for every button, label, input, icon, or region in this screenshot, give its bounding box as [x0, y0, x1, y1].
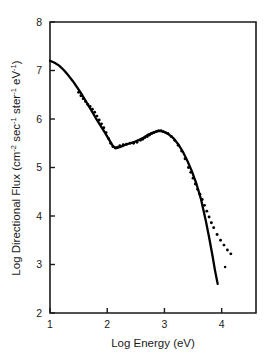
- x-tick-label-2: 2: [104, 318, 110, 330]
- y-axis-title-mid1: sec: [10, 124, 22, 145]
- y-tick-label-3: 3: [36, 258, 42, 270]
- data-point: [173, 139, 176, 142]
- x-tick-label-3: 3: [162, 318, 168, 330]
- y-axis-title-mid3: eV: [10, 71, 22, 89]
- data-point: [100, 122, 103, 125]
- series-2: [224, 266, 227, 269]
- data-point: [229, 252, 232, 255]
- data-point: [82, 97, 85, 100]
- data-point: [132, 142, 135, 145]
- y-axis-title-sup4: -1: [9, 64, 18, 71]
- data-point: [170, 135, 173, 138]
- data-point: [93, 111, 96, 114]
- data-point: [141, 138, 144, 141]
- data-point: [77, 91, 80, 94]
- y-tick-label-4: 4: [36, 210, 42, 222]
- y-axis-title-sup2: -1: [9, 117, 18, 124]
- data-point: [84, 100, 87, 103]
- data-point: [122, 143, 125, 146]
- data-point: [79, 94, 82, 97]
- y-tick-label-5: 5: [36, 161, 42, 173]
- data-point: [166, 132, 169, 135]
- data-point: [118, 144, 121, 147]
- data-point: [98, 119, 101, 122]
- data-point: [219, 239, 222, 242]
- data-point: [201, 198, 204, 201]
- y-tick-label-2: 2: [36, 307, 42, 319]
- y-axis-title-tail: ): [10, 60, 22, 64]
- data-point: [107, 137, 110, 140]
- data-point: [125, 143, 128, 146]
- data-point: [189, 171, 192, 174]
- data-point: [91, 108, 94, 111]
- data-point: [212, 226, 215, 229]
- data-point: [205, 210, 208, 213]
- data-point: [109, 142, 112, 145]
- data-point: [208, 216, 211, 219]
- data-point: [196, 188, 199, 191]
- data-point: [129, 142, 132, 145]
- y-tick-label-8: 8: [36, 16, 42, 28]
- x-tick-label-4: 4: [219, 318, 225, 330]
- data-point: [224, 266, 227, 269]
- x-tick-label-1: 1: [47, 318, 53, 330]
- y-axis-title-sup1: -2: [9, 145, 18, 152]
- y-tick-label-6: 6: [36, 113, 42, 125]
- data-point: [203, 204, 206, 207]
- data-point: [194, 183, 197, 186]
- data-point: [86, 103, 89, 106]
- chart-canvas: 1234 2345678 Log Energy (eV) Log Directi…: [0, 0, 270, 363]
- data-point: [223, 244, 226, 247]
- x-axis-title: Log Energy (eV): [111, 337, 195, 349]
- data-point: [184, 157, 187, 160]
- data-point: [105, 131, 108, 134]
- figure-container: 1234 2345678 Log Energy (eV) Log Directi…: [0, 0, 270, 363]
- data-point: [192, 177, 195, 180]
- data-point: [95, 115, 98, 118]
- data-point: [216, 233, 219, 236]
- y-axis-title-main: Log Directional Flux (cm: [10, 152, 22, 276]
- data-point: [102, 126, 105, 129]
- data-point: [136, 141, 139, 144]
- data-point: [226, 249, 229, 252]
- data-point: [198, 193, 201, 196]
- y-tick-label-7: 7: [36, 64, 42, 76]
- y-axis-title-sup3: -1: [9, 88, 18, 95]
- y-axis-title-mid2: ster: [10, 95, 22, 118]
- data-point: [89, 105, 92, 108]
- data-point: [210, 221, 213, 224]
- data-point: [180, 150, 183, 153]
- data-point: [187, 166, 190, 169]
- data-point: [177, 144, 180, 147]
